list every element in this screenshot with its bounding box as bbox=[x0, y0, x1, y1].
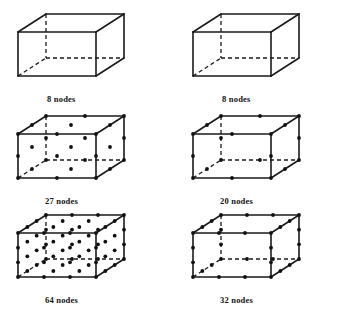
node-edge-hex20 bbox=[283, 167, 287, 171]
edge-top-left-hex8-linear bbox=[18, 14, 46, 32]
node-edge-hex27 bbox=[94, 176, 98, 180]
node-face-hex64 bbox=[87, 219, 91, 223]
node-edge-hex27 bbox=[44, 114, 48, 118]
node-edge-hex64 bbox=[122, 228, 126, 232]
node-edge-hex27 bbox=[16, 154, 20, 158]
node-face-hex64 bbox=[77, 269, 81, 273]
edge-top-left-hex32 bbox=[193, 215, 221, 233]
node-face-hex64 bbox=[87, 263, 91, 267]
node-face-hex27 bbox=[30, 145, 34, 149]
edge-top-right-hex32 bbox=[271, 215, 299, 233]
node-edge-hex32 bbox=[269, 275, 273, 279]
node-edge-hex64 bbox=[35, 263, 39, 267]
node-edge-hex32 bbox=[297, 257, 301, 261]
node-edge-hex64 bbox=[44, 242, 48, 246]
node-edge-hex64 bbox=[96, 213, 100, 217]
node-edge-hex64 bbox=[122, 257, 126, 261]
element-drawing-hex32 bbox=[183, 205, 333, 305]
caption-hex8-linear: 8 nodes bbox=[47, 95, 76, 104]
node-edge-hex27 bbox=[55, 132, 59, 136]
node-edge-hex64 bbox=[35, 219, 39, 223]
node-interior-hex64 bbox=[61, 248, 65, 252]
node-face-hex64 bbox=[68, 260, 72, 264]
node-edge-hex27 bbox=[30, 123, 34, 127]
node-edge-hex64 bbox=[113, 219, 117, 223]
node-edge-hex27 bbox=[83, 158, 87, 162]
node-edge-hex20 bbox=[269, 132, 273, 136]
node-edge-hex64 bbox=[16, 231, 20, 235]
edge-top-right-hex8-serendipity bbox=[271, 14, 299, 32]
caption-hex8-serendipity: 8 nodes bbox=[222, 95, 251, 104]
edge-top-right-hex64 bbox=[96, 215, 124, 233]
node-edge-hex64 bbox=[94, 246, 98, 250]
node-edge-hex20 bbox=[191, 154, 195, 158]
node-interior-hex64 bbox=[87, 248, 91, 252]
node-face-hex64 bbox=[96, 242, 100, 246]
edge-top-left-hex64 bbox=[18, 215, 46, 233]
node-edge-hex20 bbox=[297, 114, 301, 118]
node-edge-hex20 bbox=[230, 132, 234, 136]
node-edge-hex32 bbox=[245, 257, 249, 261]
node-interior-hex64 bbox=[51, 240, 55, 244]
node-face-hex27 bbox=[83, 136, 87, 140]
node-edge-hex27 bbox=[44, 136, 48, 140]
node-face-hex64 bbox=[35, 248, 39, 252]
node-edge-hex32 bbox=[243, 231, 247, 235]
node-edge-hex27 bbox=[122, 158, 126, 162]
element-drawing-hex8-serendipity bbox=[183, 4, 333, 104]
node-edge-hex27 bbox=[30, 167, 34, 171]
node-edge-hex20 bbox=[205, 167, 209, 171]
node-face-hex64 bbox=[103, 254, 107, 258]
node-edge-hex32 bbox=[271, 213, 275, 217]
node-edge-hex64 bbox=[25, 225, 29, 229]
node-edge-hex64 bbox=[68, 275, 72, 279]
node-edge-hex64 bbox=[103, 269, 107, 273]
node-edge-hex27 bbox=[94, 154, 98, 158]
node-edge-hex20 bbox=[258, 114, 262, 118]
element-hex32 bbox=[183, 205, 333, 305]
node-face-hex64 bbox=[25, 240, 29, 244]
node-edge-hex32 bbox=[219, 257, 223, 261]
element-hex64 bbox=[8, 205, 158, 305]
edge-bottom-right-hex32 bbox=[271, 259, 299, 277]
node-edge-hex20 bbox=[219, 158, 223, 162]
node-interior-hex64 bbox=[77, 254, 81, 258]
node-edge-hex64 bbox=[44, 228, 48, 232]
edge-bottom-right-hex64 bbox=[96, 259, 124, 277]
node-edge-hex27 bbox=[94, 132, 98, 136]
node-face-hex64 bbox=[70, 228, 74, 232]
node-edge-hex32 bbox=[297, 213, 301, 217]
element-drawing-hex20 bbox=[183, 106, 333, 206]
node-edge-hex32 bbox=[191, 260, 195, 264]
node-face-hex64 bbox=[25, 254, 29, 258]
node-edge-hex27 bbox=[108, 167, 112, 171]
node-edge-hex32 bbox=[219, 228, 223, 232]
node-edge-hex64 bbox=[70, 213, 74, 217]
edge-bottom-right-hex8-linear bbox=[96, 58, 124, 76]
node-edge-hex20 bbox=[297, 136, 301, 140]
node-edge-hex20 bbox=[205, 123, 209, 127]
node-edge-hex64 bbox=[94, 275, 98, 279]
node-face-hex64 bbox=[42, 246, 46, 250]
node-edge-hex64 bbox=[16, 246, 20, 250]
node-edge-hex64 bbox=[25, 269, 29, 273]
edge-bottom-left-hex32 bbox=[193, 259, 221, 277]
node-edge-hex27 bbox=[16, 176, 20, 180]
node-edge-hex32 bbox=[191, 246, 195, 250]
node-face-hex64 bbox=[42, 260, 46, 264]
node-edge-hex32 bbox=[191, 275, 195, 279]
node-edge-hex64 bbox=[42, 275, 46, 279]
node-edge-hex32 bbox=[278, 225, 282, 229]
node-edge-hex32 bbox=[210, 219, 214, 223]
node-edge-hex32 bbox=[269, 231, 273, 235]
node-edge-hex27 bbox=[122, 136, 126, 140]
node-edge-hex32 bbox=[217, 275, 221, 279]
node-edge-hex32 bbox=[297, 228, 301, 232]
node-edge-hex20 bbox=[191, 132, 195, 136]
element-hex27 bbox=[8, 106, 158, 206]
node-edge-hex32 bbox=[269, 260, 273, 264]
node-face-hex27 bbox=[69, 123, 73, 127]
node-face-hex64 bbox=[113, 234, 117, 238]
node-edge-hex64 bbox=[96, 257, 100, 261]
node-edge-hex32 bbox=[271, 257, 275, 261]
